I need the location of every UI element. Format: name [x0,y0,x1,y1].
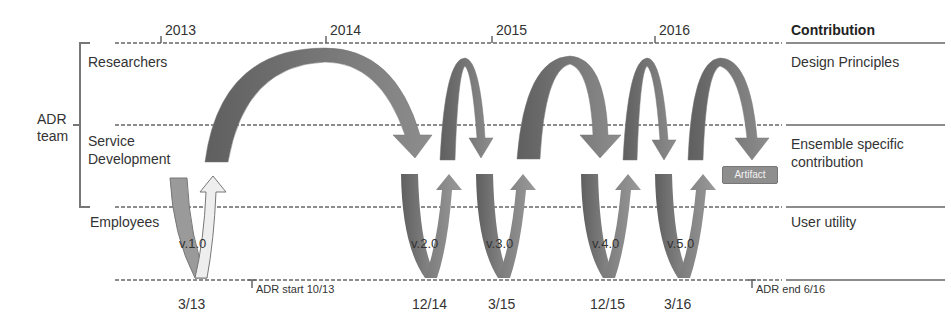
version-v5: v.5.0 [667,236,694,251]
date-v3: 3/15 [488,296,515,312]
arrow-v2 [401,174,462,278]
year-2016: 2016 [659,22,690,38]
version-v3: v.3.0 [486,236,513,251]
row-label-researchers: Researchers [88,54,167,70]
arrow-arch-4 [623,58,676,160]
adr-end-label: ADR end 6/16 [756,283,825,295]
row-label-service: Service [88,133,135,149]
year-2014: 2014 [330,22,361,38]
row-label-development: Development [88,151,171,167]
year-2015: 2015 [496,22,527,38]
arrow-v1 [170,176,226,278]
arrow-v5 [655,174,716,278]
date-v4: 12/15 [590,296,625,312]
contribution-ensemble-line2: contribution [791,154,863,170]
date-v5: 3/16 [664,296,691,312]
arrow-arch-3 [517,56,621,159]
version-v2: v.2.0 [411,236,438,251]
arrow-big-arch [205,48,432,162]
row-label-employees: Employees [90,214,159,230]
team-label-adr: ADR [37,111,67,127]
date-v1: 3/13 [178,296,205,312]
contribution-ensemble-line1: Ensemble specific [791,136,904,152]
version-v1: v.1.0 [179,236,206,251]
arrow-v3 [476,174,536,278]
arrow-arch-2 [440,58,493,160]
adr-start-label: ADR start 10/13 [256,283,334,295]
team-label-team: team [37,128,68,144]
version-v4: v.4.0 [592,236,619,251]
arrow-v4 [581,174,641,278]
contribution-header: Contribution [791,22,875,38]
year-ticks [161,36,655,43]
year-2013: 2013 [165,22,196,38]
contribution-design-principles: Design Principles [791,54,899,70]
artifact-box: Artifact [722,166,778,184]
date-v2: 12/14 [412,296,447,312]
arrow-arch-5 [688,58,769,160]
contribution-user-utility: User utility [791,214,856,230]
